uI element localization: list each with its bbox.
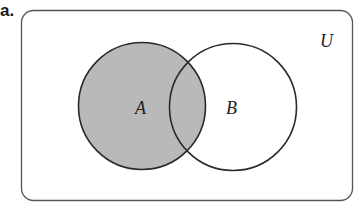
set-a-label: A [134,98,147,118]
set-b-label: B [226,98,237,118]
universe-label: U [320,31,334,51]
venn-diagram: A B U [0,0,359,203]
